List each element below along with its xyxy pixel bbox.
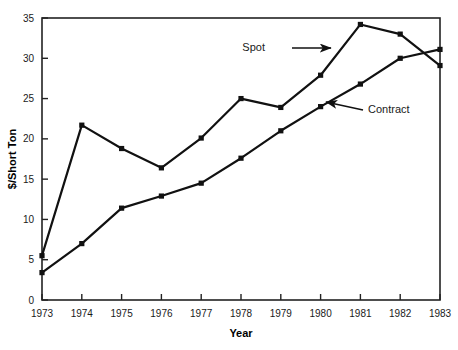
y-tick-label: 20 (23, 133, 35, 144)
x-tick-label: 1980 (309, 308, 332, 319)
data-point-marker (278, 105, 283, 110)
chart-container: 0510152025303519731974197519761977197819… (0, 0, 458, 350)
data-point-marker (79, 241, 84, 246)
y-tick-label: 30 (23, 53, 35, 64)
data-point-marker (119, 206, 124, 211)
data-point-marker (358, 81, 363, 86)
data-point-marker (398, 32, 403, 37)
x-tick-label: 1982 (389, 308, 412, 319)
data-point-marker (318, 104, 323, 109)
y-tick-label: 5 (28, 254, 34, 265)
x-axis-title: Year (229, 327, 253, 339)
data-point-marker (39, 270, 44, 275)
data-point-marker (199, 135, 204, 140)
x-tick-label: 1979 (270, 308, 293, 319)
series-line-contract (42, 49, 440, 272)
data-point-marker (39, 253, 44, 258)
x-tick-label: 1973 (31, 308, 54, 319)
x-tick-label: 1976 (150, 308, 173, 319)
annotation-label-spot: Spot (242, 41, 265, 53)
data-point-marker (437, 63, 442, 68)
y-tick-label: 15 (23, 174, 35, 185)
data-point-marker (159, 193, 164, 198)
x-tick-label: 1981 (349, 308, 372, 319)
y-axis-title: $/Short Ton (6, 129, 18, 190)
data-point-marker (159, 165, 164, 170)
series-line-spot (42, 24, 440, 255)
data-point-marker (318, 73, 323, 78)
data-point-marker (199, 181, 204, 186)
x-tick-label: 1974 (71, 308, 94, 319)
data-point-marker (238, 96, 243, 101)
x-tick-label: 1975 (110, 308, 133, 319)
y-tick-label: 10 (23, 214, 35, 225)
x-tick-label: 1983 (429, 308, 452, 319)
data-point-marker (79, 123, 84, 128)
data-point-marker (437, 47, 442, 52)
y-tick-label: 25 (23, 93, 35, 104)
x-tick-label: 1977 (190, 308, 213, 319)
annotation-label-contract: Contract (368, 103, 410, 115)
y-tick-label: 0 (28, 295, 34, 306)
annotation-arrow-contract (326, 102, 363, 110)
x-tick-label: 1978 (230, 308, 253, 319)
data-point-marker (398, 56, 403, 61)
data-point-marker (278, 128, 283, 133)
y-tick-label: 35 (23, 13, 35, 24)
data-point-marker (358, 22, 363, 27)
line-chart: 0510152025303519731974197519761977197819… (0, 0, 458, 350)
data-point-marker (119, 146, 124, 151)
data-point-marker (238, 156, 243, 161)
